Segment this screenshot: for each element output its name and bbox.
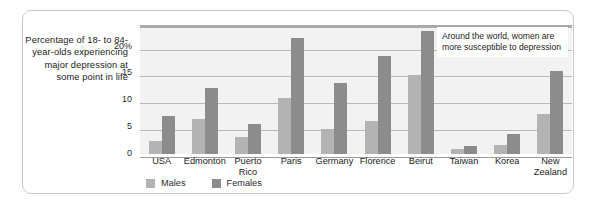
bar-males [192, 119, 205, 154]
legend-label-females: Females [227, 178, 262, 188]
legend-item-males: Males [146, 178, 186, 188]
bar-males [278, 98, 291, 154]
y-tick-label: 0 [72, 148, 132, 158]
x-tick-label: New Zealand [529, 156, 572, 182]
bar-females [378, 56, 391, 154]
x-tick-label: Paris [270, 156, 313, 182]
bar-group [140, 28, 183, 154]
bar-females [291, 38, 304, 154]
bar-group [226, 28, 269, 154]
bar-females [205, 88, 218, 154]
bar-males [365, 121, 378, 154]
x-tick-label: Beirut [399, 156, 442, 182]
y-axis-tick-labels: 05101520% [0, 25, 136, 154]
bar-group [356, 28, 399, 154]
y-tick-label: 10 [72, 94, 132, 104]
chart-annotation: Around the world, women are more suscept… [437, 27, 568, 57]
x-tick-label: Germany [313, 156, 356, 182]
legend-swatch-males [146, 179, 155, 188]
bar-group [183, 28, 226, 154]
chart-figure: Percentage of 18- to 84-year-olds experi… [0, 0, 600, 204]
legend-item-females: Females [212, 178, 262, 188]
bar-group [270, 28, 313, 154]
bar-males [408, 75, 421, 154]
bar-group [313, 28, 356, 154]
legend-label-males: Males [161, 178, 186, 188]
bar-males [149, 141, 162, 154]
bar-females [334, 83, 347, 154]
bar-males [235, 137, 248, 154]
bar-females [162, 116, 175, 154]
bar-females [248, 124, 261, 154]
bar-males [321, 129, 334, 154]
bar-females [464, 146, 477, 154]
bar-males [494, 145, 507, 154]
bar-females [550, 71, 563, 154]
chart-legend: Males Females [146, 178, 262, 188]
bar-group [399, 28, 442, 154]
bar-males [451, 149, 464, 154]
x-tick-label: Korea [486, 156, 529, 182]
legend-swatch-females [212, 179, 221, 188]
y-tick-label: 20% [72, 41, 132, 51]
x-tick-label: Taiwan [442, 156, 485, 182]
y-tick-label: 15 [72, 67, 132, 77]
bar-males [537, 114, 550, 154]
bar-females [507, 134, 520, 154]
bar-females [421, 31, 434, 154]
y-tick-label: 5 [72, 121, 132, 131]
x-tick-label: Florence [356, 156, 399, 182]
